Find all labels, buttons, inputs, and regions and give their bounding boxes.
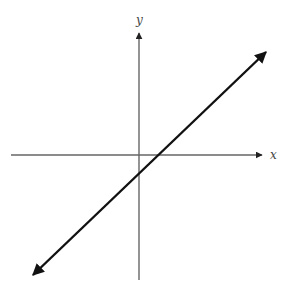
coordinate-graph: x y [0,0,282,284]
x-axis-label: x [270,148,277,162]
linear-function-line [33,52,266,275]
x-axis: x [11,148,277,162]
y-axis: y [135,13,143,280]
y-axis-label: y [135,13,143,27]
